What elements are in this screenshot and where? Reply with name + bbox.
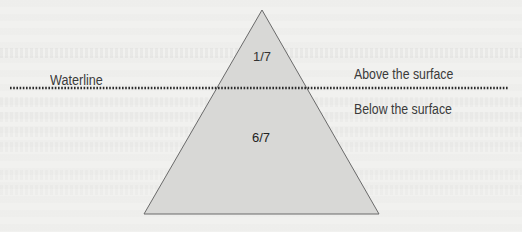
above-surface-label: Above the surface (354, 67, 453, 81)
above-fraction-label: 1/7 (253, 50, 271, 63)
below-surface-label: Below the surface (354, 102, 452, 116)
below-fraction-label: 6/7 (252, 131, 270, 144)
iceberg-triangle (144, 10, 379, 214)
waterline-label: Waterline (50, 73, 103, 87)
